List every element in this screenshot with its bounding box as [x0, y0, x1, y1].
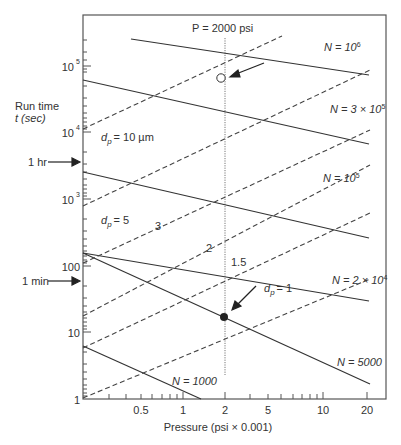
- svg-text:1: 1: [74, 394, 80, 406]
- label-n-1e6: N = 106: [324, 41, 361, 53]
- label-n-1e5: N = 105: [323, 172, 360, 184]
- arrows: [48, 63, 264, 310]
- x-axis-title: Pressure (psi × 0.001): [164, 421, 273, 433]
- svg-text:10: 10: [62, 194, 74, 206]
- x-tick-labels: 0.5 1 2 5 10 20: [133, 404, 373, 416]
- svg-text:100: 100: [62, 261, 80, 273]
- line-dp-3: [83, 130, 370, 263]
- svg-text:2: 2: [222, 404, 228, 416]
- label-dp-3: 3: [155, 220, 161, 232]
- x-axis-ticks: [109, 392, 367, 399]
- reference-line-label: P = 2000 psi: [192, 22, 253, 34]
- svg-text:3: 3: [76, 191, 80, 198]
- svg-text:20: 20: [361, 404, 373, 416]
- svg-text:1: 1: [180, 404, 186, 416]
- svg-text:4: 4: [76, 124, 80, 131]
- svg-text:5: 5: [265, 404, 271, 416]
- label-n-2e4: N = 2 × 104: [332, 274, 387, 286]
- svg-text:10: 10: [62, 61, 74, 73]
- label-dp-10: dp= 10 µm: [101, 131, 154, 146]
- svg-text:0.5: 0.5: [133, 404, 148, 416]
- filled-circle-marker: [220, 313, 228, 321]
- y-axis-title-line2: t (sec): [15, 112, 46, 124]
- label-dp-5: dp= 5: [101, 214, 129, 229]
- label-dp-2: 2: [206, 242, 212, 254]
- arrowhead-icon: [230, 70, 240, 77]
- svg-text:5: 5: [76, 58, 80, 65]
- label-n-1000: N = 1000: [172, 375, 218, 387]
- chart: 1 10 100 10 3 10 4 10 5 0.5 1 2 5 10 20 …: [0, 0, 401, 445]
- annotation-1hr: 1 hr: [28, 156, 47, 168]
- arrow-to-filled-circle: [237, 286, 256, 305]
- arrowhead-icon: [72, 277, 80, 285]
- annotation-1min: 1 min: [22, 275, 49, 287]
- svg-text:10: 10: [317, 404, 329, 416]
- label-dp-1: dp= 1: [264, 282, 292, 297]
- line-dp-1-5: [83, 213, 370, 348]
- series-labels: N = 106 N = 3 × 105 N = 105 N = 2 × 104 …: [101, 41, 387, 387]
- arrow-to-open-circle: [236, 63, 264, 74]
- arrowhead-icon: [72, 158, 80, 166]
- open-circle-marker: [217, 74, 225, 82]
- label-dp-1-5: 1.5: [231, 256, 246, 268]
- y-tick-labels: 1 10 100 10 3 10 4 10 5: [62, 58, 80, 406]
- line-dp-1: [83, 279, 370, 398]
- svg-text:10: 10: [62, 127, 74, 139]
- line-dp-10: [83, 36, 282, 129]
- label-n-5000: N = 5000: [337, 356, 383, 368]
- svg-text:10: 10: [68, 327, 80, 339]
- label-n-3e5: N = 3 × 105: [330, 103, 385, 115]
- y-axis-title-line1: Run time: [15, 100, 59, 112]
- y-axis-ticks: [83, 40, 91, 396]
